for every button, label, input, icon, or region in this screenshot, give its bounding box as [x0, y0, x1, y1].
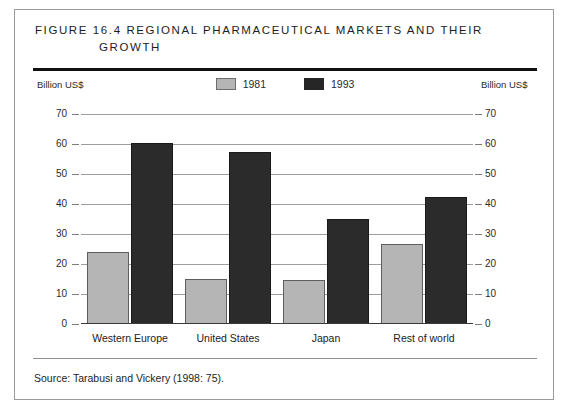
- axis-tick-left: [72, 114, 79, 115]
- y-axis-right-caption: Billion US$: [481, 79, 527, 90]
- y-tick-label-left: 50: [39, 168, 67, 179]
- title-divider: [33, 68, 537, 71]
- x-category-label: United States: [179, 332, 277, 344]
- axis-tick-right: [475, 204, 482, 205]
- axis-tick-right: [475, 324, 482, 325]
- y-tick-label-right: 10: [485, 288, 513, 299]
- x-axis-line: [81, 323, 473, 325]
- bars-layer: [81, 100, 473, 324]
- bar-1993-japan: [327, 219, 369, 324]
- axis-tick-right: [475, 144, 482, 145]
- y-tick-label-left: 20: [39, 258, 67, 269]
- y-tick-label-right: 70: [485, 108, 513, 119]
- axis-tick-left: [72, 174, 79, 175]
- legend-swatch-1981: [216, 78, 236, 90]
- bar-1993-united-states: [229, 152, 271, 325]
- x-category-label: Rest of world: [375, 332, 473, 344]
- legend-item-1981: 1981: [216, 78, 266, 90]
- figure-title-line1: Figure 16.4 Regional Pharmaceutical Mark…: [35, 24, 483, 36]
- y-tick-label-right: 0: [485, 318, 513, 329]
- x-axis-category-labels: Western EuropeUnited StatesJapanRest of …: [81, 332, 473, 350]
- axis-tick-right: [475, 294, 482, 295]
- source-note: Source: Tarabusi and Vickery (1998: 75).: [34, 372, 224, 384]
- figure-title-line2: Growth: [35, 39, 535, 56]
- bar-1981-united-states: [185, 279, 227, 324]
- bar-1993-western-europe: [131, 143, 173, 325]
- bar-1981-japan: [283, 280, 325, 324]
- x-category-label: Western Europe: [81, 332, 179, 344]
- y-tick-label-right: 30: [485, 228, 513, 239]
- y-tick-label-left: 30: [39, 228, 67, 239]
- bar-1993-rest-of-world: [425, 197, 467, 325]
- axis-tick-right: [475, 174, 482, 175]
- axis-tick-left: [72, 264, 79, 265]
- legend-swatch-1993: [304, 78, 324, 90]
- y-tick-label-right: 60: [485, 138, 513, 149]
- axis-tick-left: [72, 324, 79, 325]
- y-tick-label-left: 40: [39, 198, 67, 209]
- figure-container: Figure 16.4 Regional Pharmaceutical Mark…: [14, 9, 554, 400]
- y-tick-label-right: 20: [485, 258, 513, 269]
- y-tick-label-right: 50: [485, 168, 513, 179]
- y-tick-label-left: 10: [39, 288, 67, 299]
- plot-area: 001010202030304040505060607070: [81, 100, 473, 340]
- figure-title: Figure 16.4 Regional Pharmaceutical Mark…: [33, 22, 535, 56]
- y-tick-label-left: 70: [39, 108, 67, 119]
- axis-tick-right: [475, 264, 482, 265]
- legend-label-1993: 1993: [331, 78, 354, 90]
- chart-legend: 1981 1993: [15, 78, 555, 90]
- axis-tick-left: [72, 204, 79, 205]
- y-tick-label-right: 40: [485, 198, 513, 209]
- axis-tick-left: [72, 234, 79, 235]
- legend-item-1993: 1993: [304, 78, 354, 90]
- axis-tick-right: [475, 234, 482, 235]
- y-tick-label-left: 0: [39, 318, 67, 329]
- figure-title-block: Figure 16.4 Regional Pharmaceutical Mark…: [33, 22, 535, 56]
- y-tick-label-left: 60: [39, 138, 67, 149]
- axis-tick-left: [72, 144, 79, 145]
- legend-label-1981: 1981: [243, 78, 266, 90]
- bar-1981-western-europe: [87, 252, 129, 324]
- y-axis-left-caption: Billion US$: [37, 79, 83, 90]
- x-category-label: Japan: [277, 332, 375, 344]
- axis-tick-left: [72, 294, 79, 295]
- footer-divider: [33, 358, 537, 359]
- axis-tick-right: [475, 114, 482, 115]
- bar-1981-rest-of-world: [381, 244, 423, 324]
